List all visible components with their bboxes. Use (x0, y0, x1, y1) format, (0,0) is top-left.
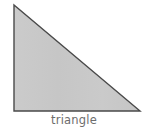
shape-figure-card: triangle (0, 0, 148, 131)
shape-canvas (0, 0, 148, 114)
shape-caption-label: triangle (0, 113, 148, 127)
triangle-graphic (0, 0, 148, 114)
triangle-shape (14, 5, 140, 111)
